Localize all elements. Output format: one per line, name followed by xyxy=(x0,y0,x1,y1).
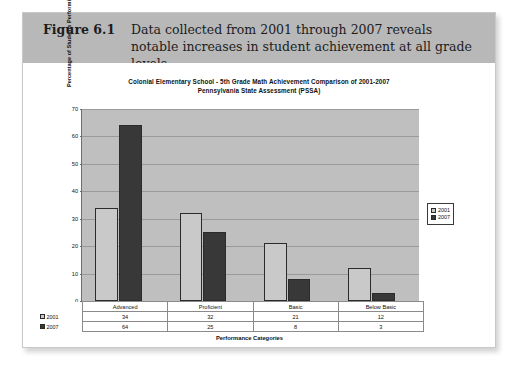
y-axis-tick-label: 30 xyxy=(72,216,78,222)
legend-label: 2007 xyxy=(438,214,450,221)
table-cell: 64 xyxy=(83,322,168,332)
legend-label: 2001 xyxy=(438,207,450,214)
table-header-row: AdvancedProficientBasicBelow Basic xyxy=(39,302,424,312)
bar-2007-advanced xyxy=(119,125,142,301)
y-axis-tick-label: 10 xyxy=(72,271,78,277)
bar-group xyxy=(251,109,335,301)
bar-group xyxy=(166,109,250,301)
y-axis-tick-label: 20 xyxy=(72,243,78,249)
series-swatch-icon xyxy=(40,324,45,329)
table-cell: 8 xyxy=(253,322,338,332)
plot-area: 010203040506070 xyxy=(81,109,419,302)
table-row: 200134322112 xyxy=(39,312,424,322)
chart-title-line2: Pennsylvania State Assessment (PSSA) xyxy=(23,86,495,95)
legend-swatch-icon xyxy=(431,215,436,220)
y-axis-tick-label: 40 xyxy=(72,188,78,194)
y-axis-tick-label: 70 xyxy=(72,106,78,112)
bar-2001-basic xyxy=(264,243,287,301)
series-swatch-icon xyxy=(40,314,45,319)
bar-group xyxy=(82,109,166,301)
table-cell: 21 xyxy=(253,312,338,322)
table-cell: 3 xyxy=(338,322,423,332)
series-label: 2007 xyxy=(47,324,59,330)
series-label: 2001 xyxy=(47,314,59,320)
table-cell: 12 xyxy=(338,312,423,322)
chart-title: Colonial Elementary School - 5th Grade M… xyxy=(23,77,495,95)
y-axis-tick-label: 50 xyxy=(72,161,78,167)
table-row-header: 2001 xyxy=(39,312,83,322)
legend-item-2001: 2001 xyxy=(431,207,450,214)
y-axis-title: Percentage of Students Performing in Eac… xyxy=(63,0,75,109)
x-axis-title: Performance Categories xyxy=(81,335,418,341)
figure-card: Figure 6.1 Data collected from 2001 thro… xyxy=(22,12,496,348)
bar-2001-proficient xyxy=(180,213,203,301)
chart-body: Colonial Elementary School - 5th Grade M… xyxy=(23,63,495,347)
chart-legend: 20012007 xyxy=(427,203,454,225)
chart-title-line1: Colonial Elementary School - 5th Grade M… xyxy=(23,77,495,86)
table-column-header: Advanced xyxy=(83,302,168,312)
legend-item-2007: 2007 xyxy=(431,214,450,221)
table-column-header: Proficient xyxy=(168,302,253,312)
bar-group xyxy=(335,109,419,301)
table-cell: 32 xyxy=(168,312,253,322)
bar-2001-below-basic xyxy=(348,268,371,301)
figure-caption-banner: Figure 6.1 Data collected from 2001 thro… xyxy=(23,13,495,63)
table-row-header: 2007 xyxy=(39,322,83,332)
y-axis-tick-label: 60 xyxy=(72,133,78,139)
legend-swatch-icon xyxy=(431,208,436,213)
bar-2007-proficient xyxy=(203,232,226,301)
table-row: 2007642583 xyxy=(39,322,424,332)
bar-2007-basic xyxy=(288,279,311,301)
figure-number-label: Figure 6.1 xyxy=(43,21,131,37)
bar-2001-advanced xyxy=(95,208,118,301)
table-column-header: Below Basic xyxy=(338,302,423,312)
chart-data-table: AdvancedProficientBasicBelow Basic200134… xyxy=(39,301,424,332)
table-column-header: Basic xyxy=(253,302,338,312)
table-corner-cell xyxy=(39,302,83,312)
table-cell: 25 xyxy=(168,322,253,332)
table-cell: 34 xyxy=(83,312,168,322)
bar-2007-below-basic xyxy=(372,293,395,301)
